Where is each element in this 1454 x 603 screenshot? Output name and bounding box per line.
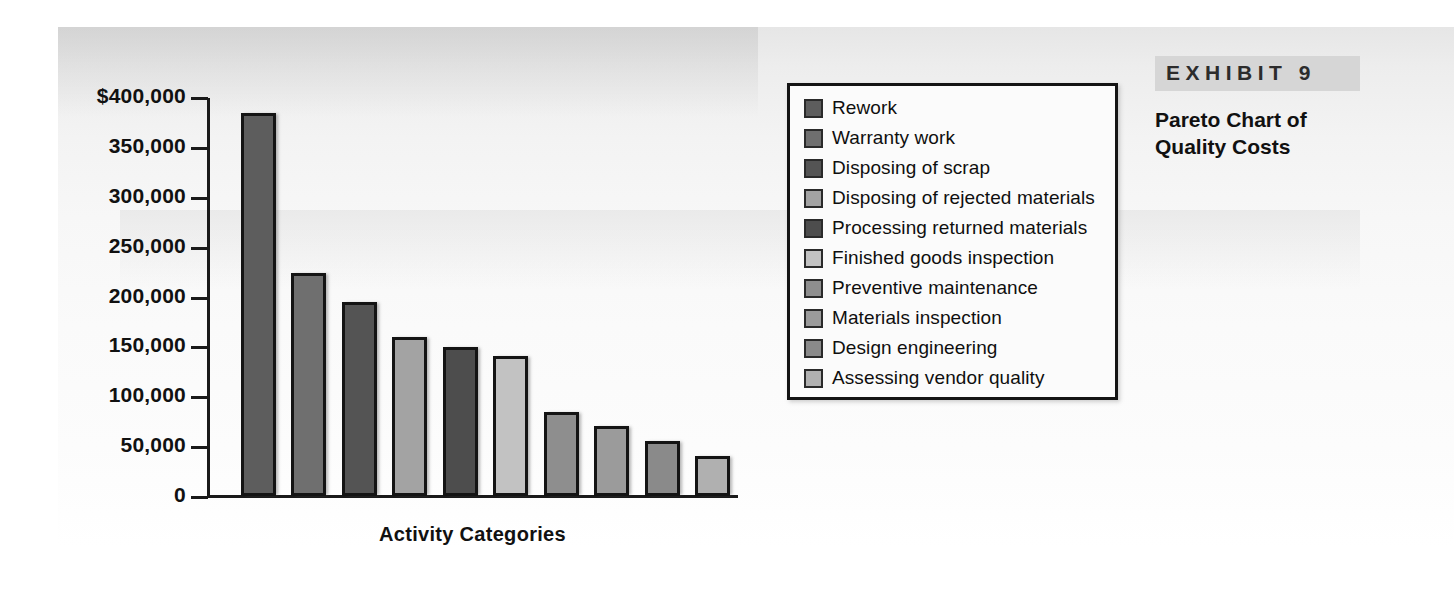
exhibit-title-line-2: Quality Costs [1155, 133, 1340, 160]
y-axis-tick-label: 250,000 [46, 234, 186, 258]
y-axis-tick-label: 100,000 [46, 383, 186, 407]
exhibit-panel: EXHIBIT 9 Pareto Chart of Quality Costs [1155, 56, 1395, 161]
y-axis-tick-label: 50,000 [46, 433, 186, 457]
legend-item-label: Rework [832, 97, 897, 119]
exhibit-number-label: EXHIBIT 9 [1166, 61, 1350, 85]
y-axis-tick-label: 150,000 [46, 333, 186, 357]
legend-item-label: Finished goods inspection [832, 247, 1054, 269]
y-axis-tick-label: 350,000 [46, 134, 186, 158]
legend-swatch-icon [804, 339, 823, 358]
bar [594, 426, 629, 496]
y-axis-tick [191, 446, 208, 449]
legend-item: Disposing of scrap [804, 153, 1115, 183]
y-axis-tick [191, 97, 208, 100]
y-axis-tick [191, 496, 208, 499]
legend-item-label: Warranty work [832, 127, 955, 149]
exhibit-title-line-1: Pareto Chart of [1155, 106, 1340, 133]
y-axis-tick-label: 0 [46, 483, 186, 507]
legend-swatch-icon [804, 159, 823, 178]
legend-item-label: Assessing vendor quality [832, 367, 1045, 389]
bar [443, 347, 478, 496]
legend-item: Disposing of rejected materials [804, 183, 1115, 213]
bar [695, 456, 730, 496]
legend-item: Processing returned materials [804, 213, 1115, 243]
legend-item-label: Disposing of scrap [832, 157, 990, 179]
legend-item: Rework [804, 93, 1115, 123]
legend-swatch-icon [804, 129, 823, 148]
legend-item: Warranty work [804, 123, 1115, 153]
y-axis-tick [191, 297, 208, 300]
legend-swatch-icon [804, 219, 823, 238]
y-axis-tick [191, 197, 208, 200]
y-axis-tick-label: 300,000 [46, 184, 186, 208]
legend-item-label: Preventive maintenance [832, 277, 1038, 299]
legend-swatch-icon [804, 309, 823, 328]
bar [392, 337, 427, 496]
y-axis-tick [191, 346, 208, 349]
legend-item: Design engineering [804, 333, 1115, 363]
legend-item-label: Materials inspection [832, 307, 1002, 329]
legend-item: Preventive maintenance [804, 273, 1115, 303]
bar [493, 356, 528, 496]
bar [544, 412, 579, 496]
y-axis-tick [191, 147, 208, 150]
bar [291, 273, 326, 496]
legend-swatch-icon [804, 249, 823, 268]
bar [241, 113, 276, 496]
y-axis-tick-label: $400,000 [46, 84, 186, 108]
exhibit-number-band: EXHIBIT 9 [1155, 56, 1360, 91]
legend-item-label: Design engineering [832, 337, 998, 359]
y-axis-tick-label: 200,000 [46, 284, 186, 308]
legend-item: Assessing vendor quality [804, 363, 1115, 393]
x-axis-title: Activity Categories [207, 523, 738, 546]
legend-swatch-icon [804, 279, 823, 298]
chart-legend: ReworkWarranty workDisposing of scrapDis… [787, 83, 1118, 400]
legend-item: Finished goods inspection [804, 243, 1115, 273]
bar [342, 302, 377, 496]
legend-item: Materials inspection [804, 303, 1115, 333]
bar [645, 441, 680, 496]
legend-swatch-icon [804, 369, 823, 388]
legend-swatch-icon [804, 99, 823, 118]
legend-item-label: Disposing of rejected materials [832, 187, 1095, 209]
legend-swatch-icon [804, 189, 823, 208]
legend-item-label: Processing returned materials [832, 217, 1087, 239]
y-axis-tick [191, 247, 208, 250]
y-axis-tick [191, 396, 208, 399]
exhibit-title: Pareto Chart of Quality Costs [1155, 106, 1340, 161]
